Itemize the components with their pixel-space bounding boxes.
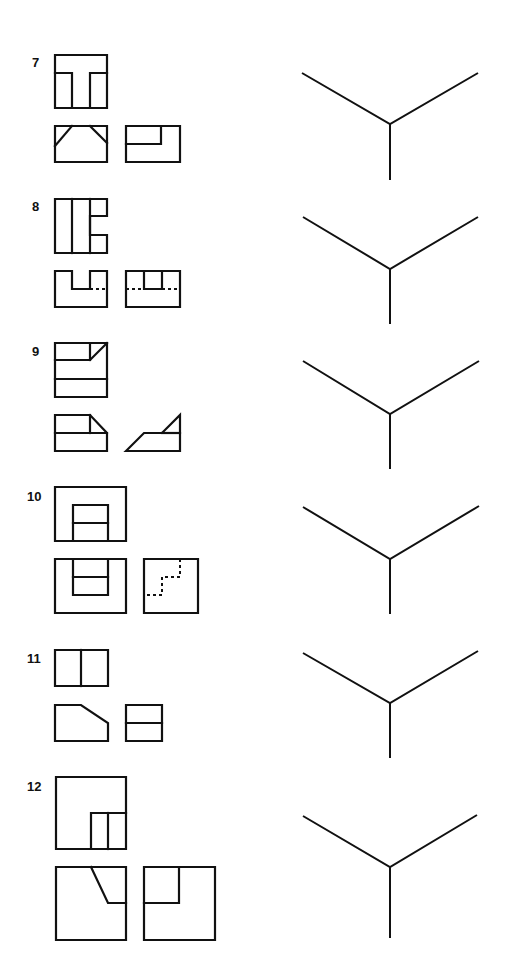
problem-10: 10 <box>27 487 479 614</box>
visible-edge <box>55 126 72 146</box>
top-view <box>55 343 107 397</box>
front-view <box>55 415 107 451</box>
top-view <box>56 777 126 849</box>
top-view <box>55 55 107 108</box>
problem-11: 11 <box>27 650 478 758</box>
visible-edge <box>55 559 126 613</box>
visible-edge <box>55 271 107 307</box>
problem-9: 9 <box>32 343 479 469</box>
axis-lines <box>303 361 479 469</box>
problem-7: 7 <box>32 55 478 180</box>
side-view <box>126 415 180 451</box>
visible-edge <box>55 343 90 360</box>
visible-edge <box>90 343 107 360</box>
problem-number: 12 <box>27 779 41 794</box>
problem-number: 10 <box>27 489 41 504</box>
visible-edge <box>55 126 107 162</box>
visible-edge <box>144 559 198 613</box>
problem-12: 12 <box>27 777 477 940</box>
axis-lines <box>303 506 479 614</box>
front-view <box>56 867 126 940</box>
problem-list: 789101112 <box>27 55 479 940</box>
visible-edge <box>126 126 161 144</box>
visible-edge <box>55 199 107 253</box>
visible-edge <box>55 73 72 108</box>
visible-edge <box>55 705 108 741</box>
problem-number: 7 <box>32 55 39 70</box>
top-view <box>55 487 126 541</box>
visible-edge <box>91 867 126 903</box>
visible-edge <box>90 126 107 143</box>
front-view <box>55 559 126 613</box>
front-view <box>55 126 107 162</box>
visible-edge <box>55 55 107 108</box>
top-view <box>55 199 107 253</box>
problem-8: 8 <box>32 199 478 324</box>
side-view <box>126 705 162 741</box>
side-view <box>144 559 198 613</box>
side-view <box>144 867 215 940</box>
isometric-axis <box>303 217 478 324</box>
axis-lines <box>303 217 478 324</box>
isometric-axis <box>302 73 478 180</box>
side-view <box>126 271 180 307</box>
axis-lines <box>302 73 478 180</box>
axis-lines <box>303 651 478 758</box>
isometric-axis <box>303 361 479 469</box>
front-view <box>55 271 107 307</box>
isometric-axis <box>303 815 477 938</box>
problem-number: 9 <box>32 344 39 359</box>
visible-edge <box>55 487 126 541</box>
hidden-edge <box>144 559 180 595</box>
side-view <box>126 126 180 162</box>
top-view <box>55 650 108 686</box>
isometric-axis <box>303 506 479 614</box>
visible-edge <box>144 271 162 289</box>
problem-number: 11 <box>27 651 41 666</box>
front-view <box>55 705 108 741</box>
visible-edge <box>90 73 107 108</box>
exercise-sheet: 789101112 <box>0 0 507 976</box>
axis-lines <box>303 815 477 938</box>
visible-edge <box>144 867 179 903</box>
isometric-axis <box>303 651 478 758</box>
problem-number: 8 <box>32 199 39 214</box>
